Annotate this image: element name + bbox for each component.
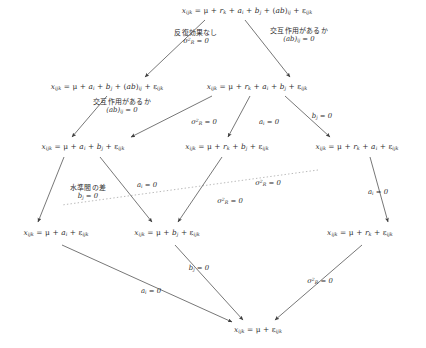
label-sigma-r-zero-dotted: σ2R = 0 — [255, 179, 281, 188]
label-b-zero-a: bj = 0 — [312, 112, 332, 121]
label-has-interaction-2-line: (ab)ij = 0 — [93, 107, 151, 116]
label-has-interaction-line: 交互作用があるか — [270, 27, 328, 35]
label-no-repeat-effect-line: 反復効果なし — [174, 29, 217, 37]
model-null: xijk = μ + εijk — [234, 326, 282, 334]
label-b-zero-a-line: bj = 0 — [312, 112, 332, 121]
label-b-zero-b: bj = 0 — [189, 264, 209, 273]
label-level-difference: 水準間の差bj = 0 — [70, 184, 106, 201]
label-a-zero-d-line: ai = 0 — [141, 287, 161, 296]
model-b-only: xijk = μ + bj + εijk — [134, 229, 200, 237]
label-sigma-r-zero-c-line: σ2R = 0 — [307, 277, 333, 286]
model-r-only: xijk = μ + rk + εijk — [327, 229, 393, 237]
label-a-zero-c: ai = 0 — [368, 188, 388, 197]
diagram-canvas: xijk = μ + rk + ai + bj + (ab)ij + εijkx… — [0, 0, 426, 348]
edge-nointeraction-to-rb — [228, 96, 250, 137]
edge-rb-to-b — [178, 157, 222, 222]
label-a-zero-a: ai = 0 — [259, 118, 279, 127]
label-level-difference-line: 水準間の差 — [70, 184, 106, 192]
label-sigma-r-zero-dotted-line: σ2R = 0 — [255, 179, 281, 188]
label-a-zero-a-line: ai = 0 — [259, 118, 279, 127]
label-sigma-r-zero-a: σ2R = 0 — [191, 118, 217, 127]
label-has-interaction-2: 交互作用があるか(ab)ij = 0 — [93, 98, 151, 115]
model-ab-only: xijk = μ + ai + bj + εijk — [42, 143, 125, 151]
label-has-interaction: 交互作用があるか(ab)ij = 0 — [270, 27, 328, 44]
label-has-interaction-line: (ab)ij = 0 — [270, 36, 328, 45]
label-a-zero-d: ai = 0 — [141, 287, 161, 296]
label-sigma-r-zero-b-line: σ2R = 0 — [217, 197, 243, 206]
label-b-zero-b-line: bj = 0 — [189, 264, 209, 273]
label-a-zero-b-line: ai = 0 — [137, 181, 157, 190]
model-rb: xijk = μ + rk + bj + εijk — [185, 143, 268, 151]
label-no-repeat-effect-line: σ2R = 0 — [174, 38, 217, 47]
edge-layer — [0, 0, 426, 348]
model-no-interaction: xijk = μ + rk + ai + bj + εijk — [207, 83, 308, 91]
model-a-only: xijk = μ + ai + εijk — [23, 229, 88, 237]
model-no-repeat: xijk = μ + ai + bj + (ab)ij + εijk — [51, 83, 164, 91]
label-no-repeat-effect: 反復効果なしσ2R = 0 — [174, 29, 217, 46]
label-has-interaction-2-line: 交互作用があるか — [93, 98, 151, 106]
edge-ab-to-a — [38, 157, 64, 222]
edge-b-to-null — [175, 245, 243, 320]
label-a-zero-c-line: ai = 0 — [368, 188, 388, 197]
label-sigma-r-zero-b: σ2R = 0 — [217, 197, 243, 206]
edge-ab-to-b — [100, 157, 152, 222]
edges — [38, 20, 388, 322]
label-sigma-r-zero-a-line: σ2R = 0 — [191, 118, 217, 127]
edge-a-to-null — [62, 245, 232, 322]
full-model: xijk = μ + rk + ai + bj + (ab)ij + εijk — [182, 7, 312, 15]
label-a-zero-b: ai = 0 — [137, 181, 157, 190]
label-sigma-r-zero-c: σ2R = 0 — [307, 277, 333, 286]
label-level-difference-line: bj = 0 — [70, 193, 106, 202]
model-ra: xijk = μ + rk + ai + εijk — [315, 143, 398, 151]
